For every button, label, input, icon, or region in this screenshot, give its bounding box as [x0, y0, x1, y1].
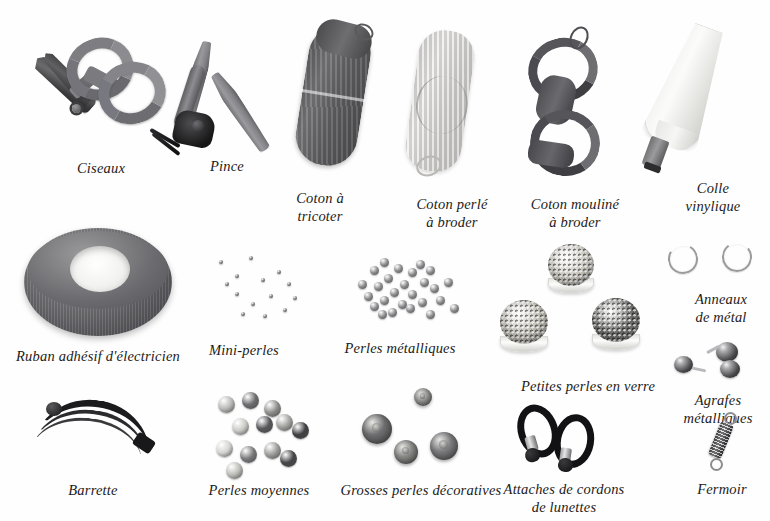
- mini-bead: [225, 282, 229, 286]
- label-attaches: Attaches de cordons de lunettes: [504, 481, 625, 516]
- label-grosses-perles: Grosses perles décoratives: [341, 482, 502, 500]
- stranded-cotton-icon: [512, 24, 612, 180]
- barrette-knob: [46, 402, 62, 416]
- metal-bead: [426, 310, 435, 319]
- tape-roll-hole: [70, 246, 130, 292]
- metal-bead: [370, 302, 379, 311]
- medium-bead: [264, 442, 281, 459]
- medium-bead: [292, 422, 309, 439]
- medium-bead: [216, 440, 233, 457]
- label-coton-perle: Coton perlé à broder: [416, 196, 487, 231]
- metal-bead: [394, 264, 403, 273]
- large-bead: [394, 440, 418, 464]
- crimp-pin-left: [692, 367, 706, 373]
- jar-bead-fill: [592, 298, 640, 342]
- medium-bead: [280, 450, 297, 467]
- large-bead: [414, 388, 432, 406]
- medium-beads-icon: [212, 392, 316, 484]
- label-colle: Colle vinylique: [686, 180, 741, 215]
- mini-bead: [283, 308, 287, 312]
- large-bead: [362, 414, 392, 444]
- label-coton-mouline: Coton mouliné à broder: [531, 196, 619, 231]
- label-fermoir: Fermoir: [697, 481, 747, 499]
- jar-bead-fill: [500, 300, 548, 344]
- medium-bead: [226, 462, 243, 479]
- label-ciseaux: Ciseaux: [77, 160, 125, 178]
- mini-bead: [251, 302, 255, 306]
- metal-bead: [420, 278, 429, 287]
- scissors-icon: [14, 32, 154, 168]
- mini-bead: [293, 296, 297, 300]
- mini-bead: [277, 270, 281, 274]
- glue-bottle-icon: [640, 22, 760, 174]
- hair-barrette-icon: [30, 398, 160, 464]
- pearl-cotton-icon: [398, 28, 498, 180]
- metal-bead: [444, 278, 453, 287]
- barrel-clasp-icon: [700, 410, 748, 472]
- metal-bead: [416, 260, 425, 269]
- label-mini-perles: Mini-perles: [209, 342, 279, 360]
- label-petites-perles: Petites perles en verre: [521, 378, 655, 396]
- crimp-beads-icon: [670, 340, 766, 384]
- label-coton-tricoter: Coton à tricoter: [296, 190, 344, 225]
- mini-beads-icon: [205, 252, 305, 322]
- jar-dark-right: [592, 298, 638, 350]
- crimp-bead-left: [674, 356, 693, 373]
- medium-bead: [256, 416, 273, 433]
- large-bead: [430, 432, 458, 460]
- medium-bead: [276, 414, 293, 431]
- metal-bead: [384, 274, 393, 283]
- medium-bead: [218, 396, 235, 413]
- metal-bead: [426, 266, 435, 275]
- metal-bead: [370, 266, 379, 275]
- large-bead-hole: [372, 423, 381, 432]
- large-beads-icon: [358, 388, 478, 478]
- crimp-bead-top: [716, 342, 738, 362]
- metal-bead: [374, 282, 383, 291]
- mini-bead: [235, 274, 239, 278]
- crimp-bead-bottom: [720, 360, 740, 378]
- medium-bead: [242, 392, 259, 409]
- metal-bead: [408, 290, 417, 299]
- metal-bead: [364, 292, 373, 301]
- mini-bead: [287, 282, 291, 286]
- split-rings-icon: [664, 242, 764, 278]
- pliers-handle-right: [208, 69, 273, 154]
- knitting-yarn-icon: [286, 22, 396, 170]
- metal-bead: [408, 268, 417, 277]
- label-perles-metalliques: Perles métalliques: [344, 340, 455, 358]
- metal-bead: [400, 280, 409, 289]
- jar-light-left: [500, 300, 546, 352]
- large-bead-hole: [420, 393, 425, 398]
- metal-bead: [418, 298, 427, 307]
- large-bead-hole: [439, 440, 447, 448]
- metal-bead: [358, 280, 367, 289]
- materials-plate: Ciseaux Pince Coton à tricoter Coton per…: [0, 0, 770, 521]
- split-ring-left: [665, 241, 701, 277]
- medium-bead: [264, 400, 281, 417]
- metal-bead: [406, 304, 415, 313]
- jar-light-top: [548, 244, 592, 293]
- label-pince: Pince: [210, 158, 244, 176]
- label-anneaux: Anneaux de métal: [695, 291, 747, 326]
- medium-bead: [232, 418, 249, 435]
- mini-bead: [241, 312, 245, 316]
- metal-bead: [388, 308, 397, 317]
- mini-bead: [235, 292, 239, 296]
- eyeglass-cord-icon: [516, 404, 606, 470]
- clasp-eye-bottom: [710, 458, 723, 471]
- metal-beads-icon: [350, 252, 465, 324]
- metal-bead: [380, 258, 389, 267]
- metal-bead: [430, 284, 439, 293]
- glass-beads-jars-icon: [490, 238, 650, 358]
- metal-bead: [436, 296, 445, 305]
- mini-bead: [219, 260, 223, 264]
- split-ring-right: [720, 240, 754, 274]
- scissors-pivot-screw: [72, 104, 81, 113]
- metal-bead: [380, 296, 389, 305]
- metal-bead: [378, 310, 387, 319]
- mini-bead: [249, 256, 253, 260]
- label-ruban: Ruban adhésif d'électricien: [16, 348, 180, 366]
- tape-roll-icon: [24, 228, 174, 340]
- label-barrette: Barrette: [68, 482, 117, 500]
